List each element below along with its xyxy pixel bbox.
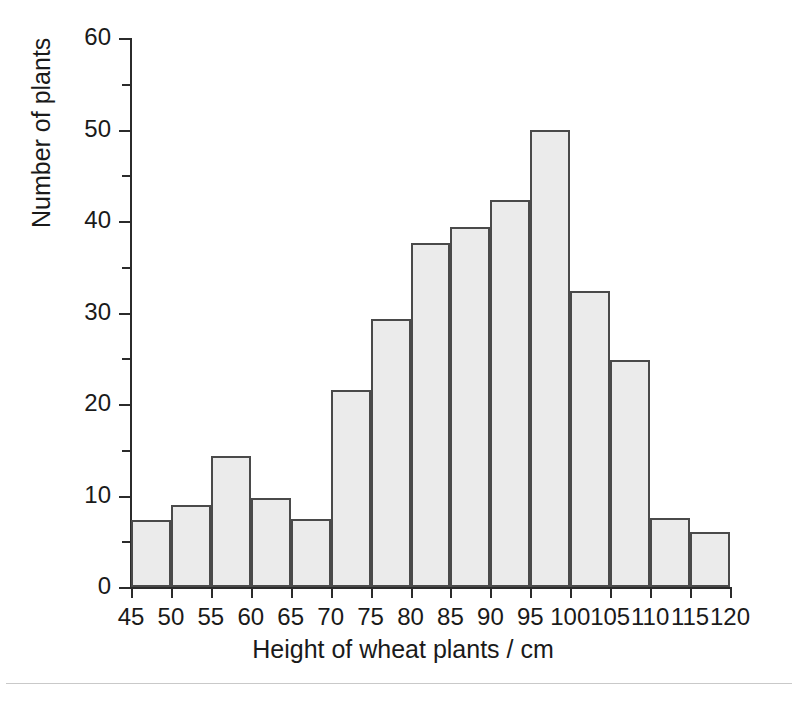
histogram-bar: [570, 291, 610, 587]
y-axis-title: Number of plants: [26, 0, 56, 228]
y-axis-line: [130, 38, 132, 588]
x-tick: [211, 587, 213, 598]
y-minor-tick: [122, 450, 130, 452]
x-tick: [291, 587, 293, 598]
y-tick: 50: [119, 130, 130, 132]
histogram-bar: [411, 243, 451, 587]
y-axis-title-wrap: Number of plants: [40, 0, 80, 620]
y-tick: 10: [119, 496, 130, 498]
x-tick-label: 45: [118, 604, 145, 630]
histogram-bar: [690, 532, 730, 587]
x-tick-label: 120: [710, 604, 750, 630]
histogram-bar: [131, 520, 171, 587]
histogram-bar: [331, 390, 371, 587]
y-minor-tick: [122, 358, 130, 360]
histogram-bar: [450, 227, 490, 588]
x-tick-label: 65: [277, 604, 304, 630]
x-tick: [610, 587, 612, 598]
histogram-bar: [490, 200, 530, 587]
x-tick-label: 80: [397, 604, 424, 630]
histogram-bar: [211, 456, 251, 587]
y-tick-label: 30: [84, 300, 111, 324]
y-minor-tick: [122, 175, 130, 177]
x-tick: [530, 587, 532, 598]
y-tick: 60: [119, 38, 130, 40]
x-tick: [650, 587, 652, 598]
x-tick: [450, 587, 452, 598]
x-tick-label: 105: [590, 604, 630, 630]
y-tick-label: 40: [84, 208, 111, 232]
x-tick: [490, 587, 492, 598]
histogram-bar: [171, 505, 211, 587]
x-tick-label: 100: [550, 604, 590, 630]
x-tick: [690, 587, 692, 598]
x-tick: [171, 587, 173, 598]
y-minor-tick: [122, 267, 130, 269]
x-tick: [730, 587, 732, 598]
histogram-bar: [291, 519, 331, 587]
y-tick: 30: [119, 313, 130, 315]
x-tick-label: 55: [198, 604, 225, 630]
x-tick-label: 75: [357, 604, 384, 630]
x-tick: [371, 587, 373, 598]
histogram-bar: [610, 360, 650, 587]
x-tick: [131, 587, 133, 598]
y-tick-label: 50: [84, 117, 111, 141]
histogram-bar: [371, 319, 411, 587]
x-tick: [411, 587, 413, 598]
y-tick-label: 60: [84, 25, 111, 49]
y-tick: 40: [119, 221, 130, 223]
plot-area: 0102030405060 45505560657075808590951001…: [131, 38, 730, 587]
y-tick-label: 0: [98, 574, 111, 598]
x-tick-label: 115: [671, 604, 709, 630]
x-tick: [570, 587, 572, 598]
histogram-bar: [650, 518, 690, 587]
x-tick-label: 95: [517, 604, 544, 630]
x-tick: [251, 587, 253, 598]
x-axis-line: [130, 587, 731, 589]
histogram-bar: [251, 498, 291, 587]
x-axis-title: Height of wheat plants / cm: [0, 634, 806, 664]
y-tick-label: 20: [84, 391, 111, 415]
y-tick-label: 10: [84, 483, 111, 507]
x-tick-label: 60: [237, 604, 264, 630]
histogram-figure: 0102030405060 45505560657075808590951001…: [0, 0, 806, 702]
x-tick-label: 110: [631, 604, 669, 630]
x-tick-label: 70: [317, 604, 344, 630]
y-minor-tick: [122, 84, 130, 86]
histogram-bar: [530, 130, 570, 588]
x-tick-label: 90: [477, 604, 504, 630]
footer-divider: [6, 683, 792, 684]
y-tick: 20: [119, 404, 130, 406]
y-tick: 0: [119, 587, 130, 589]
x-tick-label: 50: [158, 604, 185, 630]
x-tick-label: 85: [437, 604, 464, 630]
y-minor-tick: [122, 541, 130, 543]
x-tick: [331, 587, 333, 598]
